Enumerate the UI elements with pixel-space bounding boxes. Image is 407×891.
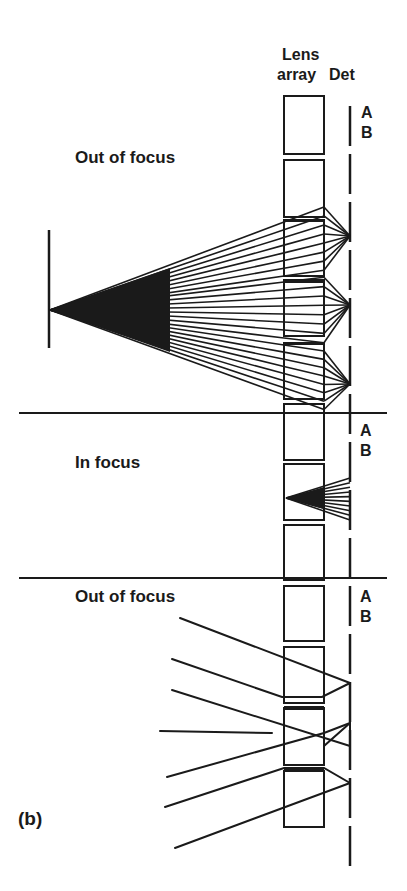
ray-bundle-bottom-out-of-focus — [160, 618, 350, 848]
ab-label-mid-b: B — [360, 442, 372, 459]
lens-array-focus-diagram: Lens array Det Out of focus In focus Out… — [0, 0, 407, 891]
section-dividers — [19, 413, 387, 578]
lens-element — [284, 586, 324, 641]
lens-array — [284, 96, 324, 827]
ab-label-top-b: B — [361, 124, 373, 141]
section-label-top: Out of focus — [75, 148, 175, 167]
ab-label-mid-a: A — [360, 422, 372, 439]
lens-element — [284, 647, 324, 703]
lens-array-label-line1: Lens — [282, 46, 319, 63]
lens-element — [284, 525, 324, 580]
lens-element — [284, 96, 324, 154]
detector-label: Det — [329, 66, 355, 83]
ab-label-bot-b: B — [360, 608, 372, 625]
ab-label-top-a: A — [361, 104, 373, 121]
ray-bundle-top-out-of-focus — [50, 207, 350, 410]
section-label-middle: In focus — [75, 453, 140, 472]
section-label-bottom: Out of focus — [75, 587, 175, 606]
lens-element — [284, 771, 324, 827]
lens-array-label-line2: array — [277, 66, 316, 83]
ab-label-bot-a: A — [360, 588, 372, 605]
panel-label: (b) — [18, 808, 42, 829]
ray-bundle-in-focus — [286, 478, 350, 520]
